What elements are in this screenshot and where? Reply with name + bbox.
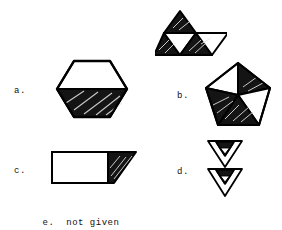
option-label-d: d. <box>177 167 189 177</box>
option-label-e: e. <box>43 218 55 228</box>
inverted-triangle-lower <box>208 169 242 196</box>
option-e-row: e. not given <box>19 208 119 230</box>
hexagon-top-half <box>57 61 127 89</box>
option-e-text: not given <box>66 218 119 228</box>
inverted-triangle-upper <box>208 141 242 167</box>
figure-triangle-strip <box>155 8 227 60</box>
figure-stacked-inverted-triangles <box>205 138 245 200</box>
answer-options-sheet: a. b. <box>0 0 282 230</box>
figure-rectangle-with-triangle <box>50 148 146 188</box>
option-e-spacer <box>54 218 66 228</box>
figure-hexagon-half-shaded <box>54 58 130 120</box>
figure-pentagon-sectors <box>203 61 273 129</box>
hexagon-bottom-half-shaded <box>57 89 127 117</box>
option-label-c: c. <box>14 166 26 176</box>
rectangle-body-white <box>52 152 108 183</box>
option-label-b: b. <box>177 91 189 101</box>
option-label-a: a. <box>14 86 26 96</box>
